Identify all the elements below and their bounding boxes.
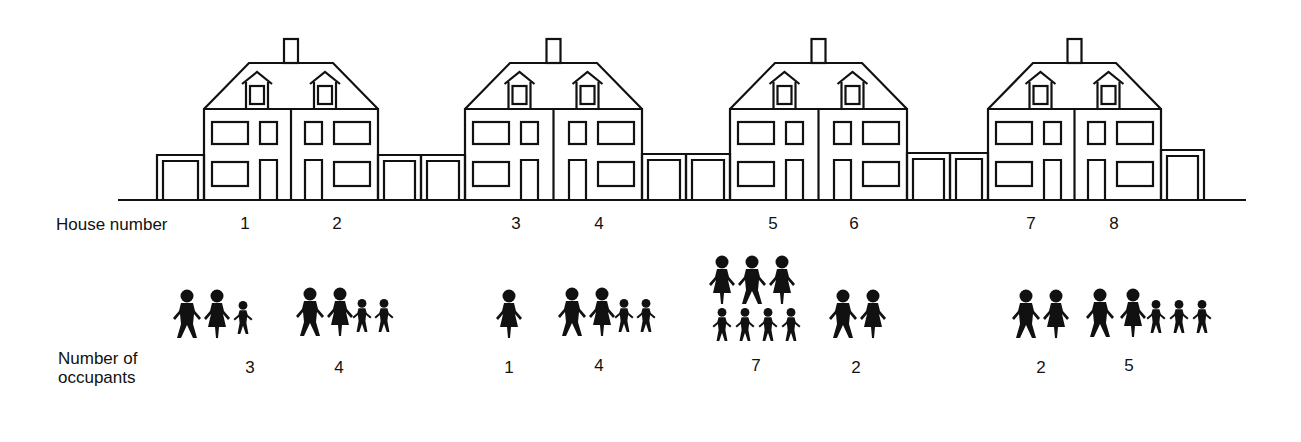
- dormer-window: [318, 86, 332, 104]
- house-number-5: 5: [768, 214, 777, 234]
- child-icon: [712, 308, 731, 341]
- house-number-1: 1: [240, 214, 249, 234]
- garage: [642, 154, 686, 200]
- door: [260, 160, 277, 200]
- window: [334, 162, 370, 186]
- window: [834, 122, 851, 144]
- child-icon: [735, 308, 754, 341]
- garage-door: [384, 161, 415, 200]
- garage-door: [648, 160, 680, 200]
- house-number-8: 8: [1109, 214, 1118, 234]
- child-icon: [233, 301, 252, 334]
- man-icon: [829, 290, 857, 339]
- garage-door: [427, 161, 459, 200]
- door: [305, 160, 322, 200]
- roof: [204, 63, 378, 109]
- dormer: [573, 72, 603, 109]
- child-icon: [758, 308, 777, 341]
- occupant-count-7: 2: [1036, 358, 1045, 378]
- chimney: [284, 39, 298, 63]
- child-icon: [1169, 300, 1188, 333]
- garage-door: [692, 160, 724, 200]
- window: [1044, 122, 1061, 144]
- garage: [378, 155, 421, 200]
- dormer-window: [250, 86, 264, 104]
- house-pair-3-4: [465, 39, 642, 200]
- woman-icon: [327, 288, 353, 337]
- woman-icon: [589, 288, 615, 337]
- woman-icon: [1120, 289, 1146, 338]
- occupant-count-5: 7: [751, 356, 760, 376]
- door: [786, 160, 803, 200]
- window: [598, 122, 634, 144]
- woman-icon: [769, 256, 795, 305]
- house-number-label: House number: [56, 216, 168, 235]
- chimney: [547, 39, 561, 63]
- window: [863, 162, 899, 186]
- woman-icon: [709, 256, 735, 305]
- man-icon: [558, 288, 586, 337]
- house-number-3: 3: [511, 214, 520, 234]
- child-icon: [614, 299, 633, 332]
- window: [738, 122, 774, 144]
- child-icon: [781, 308, 800, 341]
- dormer: [1094, 72, 1124, 109]
- door: [521, 160, 538, 200]
- window: [863, 122, 899, 144]
- man-icon: [296, 288, 324, 337]
- garage: [950, 153, 988, 200]
- house-number-2: 2: [332, 214, 341, 234]
- roof: [730, 63, 907, 109]
- garage-left: [157, 155, 204, 200]
- garage: [686, 154, 730, 200]
- occupants-label-line2: occupants: [58, 369, 137, 388]
- man-icon: [738, 256, 766, 305]
- child-icon: [636, 299, 655, 332]
- door: [834, 160, 851, 200]
- window: [1117, 122, 1153, 144]
- child-icon: [374, 299, 393, 332]
- occupant-count-6: 2: [851, 358, 860, 378]
- dormer-window: [1034, 86, 1048, 104]
- occupant-count-2: 4: [334, 358, 343, 378]
- window: [305, 122, 322, 144]
- street-diagram: House number Number of occupants 1 2 3 4…: [0, 0, 1301, 442]
- window: [260, 122, 277, 144]
- dormer-window: [513, 86, 527, 104]
- woman-icon: [496, 290, 522, 339]
- dormer: [1026, 72, 1056, 109]
- garage-door: [163, 161, 198, 200]
- occupants-label: Number of occupants: [58, 350, 137, 387]
- window: [334, 122, 370, 144]
- dormer-window: [581, 86, 595, 104]
- occupant-count-4: 4: [594, 356, 603, 376]
- garage-door: [956, 159, 982, 200]
- occupants-label-line1: Number of: [58, 350, 137, 369]
- window: [1117, 162, 1153, 186]
- dormer-window: [846, 86, 860, 104]
- window: [473, 162, 509, 186]
- house-number-4: 4: [594, 214, 603, 234]
- garage-door: [913, 159, 944, 200]
- chimney: [812, 39, 826, 63]
- house-number-7: 7: [1026, 214, 1035, 234]
- dormer: [838, 72, 868, 109]
- woman-icon: [204, 290, 230, 339]
- window: [786, 122, 803, 144]
- occupant-count-3: 1: [504, 358, 513, 378]
- woman-icon: [860, 290, 886, 339]
- garage: [421, 155, 465, 200]
- child-icon: [1192, 300, 1211, 333]
- occupant-count-1: 3: [245, 358, 254, 378]
- garage-right: [1161, 150, 1204, 200]
- dormer-window: [778, 86, 792, 104]
- window: [1088, 122, 1105, 144]
- roof: [465, 63, 642, 109]
- chimney: [1068, 39, 1082, 63]
- window: [738, 162, 774, 186]
- house-pair-7-8: [988, 39, 1161, 200]
- window: [996, 122, 1032, 144]
- man-icon: [1012, 290, 1040, 339]
- street-of-houses: [0, 0, 1301, 442]
- window: [569, 122, 586, 144]
